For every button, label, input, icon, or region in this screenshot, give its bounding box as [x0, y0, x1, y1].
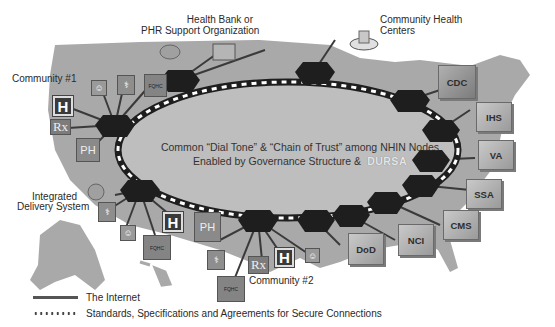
nhin-diagram: Health Bank or PHR Support Organization … — [0, 0, 555, 327]
ids-hospital-icon: H — [163, 212, 183, 232]
alaska-shape — [30, 220, 105, 290]
c2-public-health-icon: PH — [194, 212, 221, 242]
chc-label-line1: Community Health — [380, 14, 462, 25]
ids-label-line2: Delivery System — [17, 201, 89, 212]
agency-nci: NCI — [398, 224, 434, 256]
agency-dod: DoD — [348, 233, 384, 265]
agency-ssa: SSA — [466, 179, 502, 209]
chc-label-line2: Centers — [380, 25, 415, 36]
center-caption: Common “Dial Tone” & “Chain of Trust” am… — [150, 140, 450, 168]
doctor-icon: ⚕ — [117, 75, 135, 95]
hawaii-shape — [140, 262, 170, 285]
center-caption-line1: Common “Dial Tone” & “Chain of Trust” am… — [150, 140, 450, 154]
c2-patient-icon: ☺ — [305, 248, 320, 263]
center-caption-line2: Enabled by Governance Structure &DURSA — [150, 154, 450, 168]
agency-va: VA — [478, 140, 514, 170]
ids-patient-icon: ☺ — [120, 225, 136, 241]
health-bank-label: Health Bank or — [181, 14, 253, 25]
community1-label: Community #1 — [12, 73, 76, 84]
health-bank-server-icon — [213, 44, 235, 60]
center-caption-line2-text: Enabled by Governance Structure & — [193, 155, 361, 167]
ids-fqhc-icon: FQHC — [143, 235, 171, 260]
agency-cms: CMS — [443, 210, 479, 240]
pharmacy-icon: Rx — [50, 119, 71, 135]
c2-doctor-icon: ⚕ — [207, 250, 225, 270]
c2-fqhc-icon: FQHC — [217, 276, 245, 302]
agency-cdc: CDC — [438, 65, 476, 99]
public-health-icon: PH — [76, 138, 100, 162]
legend-standards-dots — [33, 312, 78, 315]
community2-label: Community #2 — [249, 275, 313, 286]
phr-support-label: PHR Support Organization — [141, 25, 259, 36]
fqhc-icon: FQHC — [144, 74, 167, 97]
ids-doctor-icon: ⚕ — [98, 202, 116, 222]
dursa-label: DURSA — [367, 155, 407, 167]
health-bank-person-icon — [160, 45, 180, 59]
c2-pharmacy-icon: Rx — [248, 256, 269, 274]
ids-person-icon — [88, 184, 104, 200]
patient-icon: ☺ — [91, 80, 107, 96]
health-bank-label-line1: Health Bank or — [181, 14, 253, 25]
legend-standards-label: Standards, Specifications and Agreements… — [86, 308, 382, 319]
legend-internet-label: The Internet — [86, 292, 140, 303]
hospital-icon: H — [53, 96, 73, 116]
legend-internet-line — [33, 296, 78, 299]
agency-ihs: IHS — [476, 102, 512, 132]
c2-hospital-icon: H — [275, 248, 294, 267]
